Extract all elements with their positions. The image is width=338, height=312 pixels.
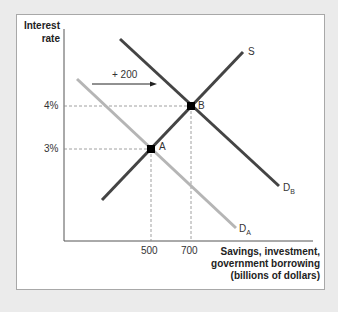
x-label-line2: government borrowing [150,258,320,270]
shift-label: + 200 [112,69,137,80]
y-label-line1: Interest [18,19,60,32]
curve-label-db: DB [283,182,295,195]
y-label-line2: rate [18,32,60,45]
y-axis-label: Interest rate [18,19,60,45]
equilibrium-point-b [187,102,195,110]
curve-label-da: DA [239,223,251,236]
tick-4pct: 4% [44,100,58,111]
demand-curve-a [77,79,236,228]
curve-label-s: S [248,46,255,57]
arrow-head-icon [150,82,157,87]
sub-a: A [246,229,251,236]
x-label-line1: Savings, investment, [150,246,320,258]
point-label-b: B [198,100,205,111]
sub-b: B [290,188,295,195]
x-label-line3: (billions of dollars) [150,270,320,282]
tick-3pct: 3% [44,143,58,154]
demand-curve-b [120,39,279,186]
x-axis-label: Savings, investment, government borrowin… [150,246,320,282]
point-label-a: A [159,141,166,152]
equilibrium-point-a [147,145,155,153]
